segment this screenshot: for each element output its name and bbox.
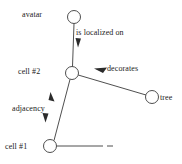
node-label-avatar: avatar (22, 10, 42, 19)
node-cell1[interactable] (44, 140, 57, 153)
node-label-tree: tree (160, 93, 172, 102)
node-cell2[interactable] (66, 67, 79, 80)
edge-cell2-cell1 (54, 79, 70, 140)
graph-canvas-svg (0, 0, 182, 164)
node-avatar[interactable] (68, 11, 81, 24)
edge-avatar-cell2 (73, 24, 75, 67)
graph-diagram: avatar cell #2 tree cell #1 is localized… (0, 0, 182, 164)
node-label-cell1: cell #1 (5, 142, 27, 151)
arrowhead-down-localized (76, 38, 82, 48)
arrowhead-up-adjacency (49, 92, 55, 102)
edge-cell2-tree (78, 75, 146, 95)
edge-label-is-localized-on: is localized on (76, 28, 124, 37)
arrowhead-left-decorates (94, 68, 107, 74)
node-label-cell2: cell #2 (18, 67, 40, 76)
edge-label-adjacency: adjacency (12, 104, 45, 113)
node-tree[interactable] (146, 91, 159, 104)
edge-label-decorates: decorates (107, 64, 138, 73)
arrowhead-down-adjacency (43, 113, 49, 123)
